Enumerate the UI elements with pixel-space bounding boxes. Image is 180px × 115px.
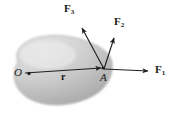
point-marker-a xyxy=(101,66,104,69)
force-diagram-figure: O A r F1 F2 F3 xyxy=(0,0,180,115)
force-label-f3: F3 xyxy=(64,3,74,14)
point-label-a: A xyxy=(100,72,107,83)
figure-canvas xyxy=(0,0,180,115)
point-label-o: O xyxy=(14,67,22,78)
force-label-f2: F2 xyxy=(114,16,124,27)
blob-highlight xyxy=(20,41,76,69)
force-label-f1: F1 xyxy=(155,64,165,75)
position-vector-label-r: r xyxy=(61,72,65,82)
point-marker-o xyxy=(27,72,30,75)
